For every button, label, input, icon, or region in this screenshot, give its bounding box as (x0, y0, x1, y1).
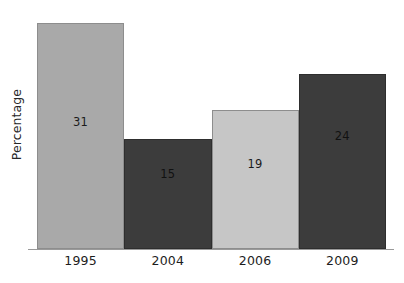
bar-value-2004: 15 (125, 167, 210, 181)
bar-value-2009: 24 (300, 129, 385, 143)
bar-2009[interactable]: 24 (299, 74, 386, 249)
x-axis-tick-labels: 1995 2004 2006 2009 (37, 253, 386, 275)
plot-area: 31 15 19 24 (37, 8, 386, 249)
x-tick-1995: 1995 (37, 253, 124, 268)
x-tick-2009: 2009 (299, 253, 386, 268)
bar-2004[interactable]: 15 (124, 139, 211, 249)
x-axis-line (28, 249, 394, 250)
x-tick-2004: 2004 (124, 253, 211, 268)
y-axis-title: Percentage (0, 0, 34, 249)
bar-value-2006: 19 (213, 157, 298, 171)
y-axis-title-label: Percentage (10, 89, 25, 160)
bars-layer: 31 15 19 24 (37, 8, 386, 249)
x-tick-2006: 2006 (212, 253, 299, 268)
bar-1995[interactable]: 31 (37, 23, 124, 249)
bar-2006[interactable]: 19 (212, 110, 299, 249)
bar-chart: Percentage 31 15 19 24 1995 2004 2006 20… (0, 0, 404, 283)
bar-value-1995: 31 (38, 115, 123, 129)
